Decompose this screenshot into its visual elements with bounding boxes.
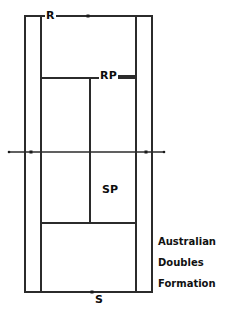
label-receivers-partner: RP [99, 70, 118, 81]
caption-line-2: Doubles [158, 252, 228, 273]
net-post-left-marker [30, 151, 33, 154]
label-server: S [94, 294, 104, 305]
label-receiver: R [45, 10, 56, 21]
caption-line-3: Formation [158, 273, 228, 294]
diagram-page: R RP SP S Australian Doubles Formation [0, 0, 229, 321]
caption-line-1: Australian [158, 231, 228, 252]
net-end-left-dot [8, 151, 11, 154]
net-post-right-marker [145, 151, 148, 154]
net-end-right-dot [163, 151, 166, 154]
doubles-court-boundary [25, 16, 152, 292]
label-servers-partner: SP [101, 184, 119, 195]
diagram-caption: Australian Doubles Formation [158, 231, 228, 294]
player-marker-receiver [87, 15, 90, 18]
